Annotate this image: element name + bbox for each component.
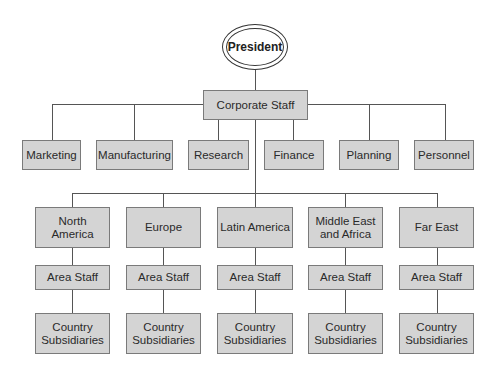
connector-region-4 — [345, 193, 346, 207]
connector-staff-1 — [72, 248, 73, 265]
connector-staff-3 — [255, 248, 256, 265]
connector-region-5 — [437, 193, 438, 207]
connector-subs-4 — [345, 290, 346, 313]
department-research: Research — [188, 140, 249, 170]
connector-subs-5 — [437, 290, 438, 313]
connector-region-3 — [255, 193, 256, 207]
org-chart: President Corporate Staff Marketing Manu… — [0, 0, 502, 373]
connector-research — [218, 120, 219, 140]
area-staff-middle-east-africa: Area Staff — [308, 265, 383, 290]
connector-subs-3 — [255, 290, 256, 313]
area-staff-europe: Area Staff — [126, 265, 201, 290]
connector-staff-4 — [345, 248, 346, 265]
connector-marketing — [52, 104, 53, 140]
connector-planning — [369, 104, 370, 140]
region-middle-east-africa: Middle East and Africa — [308, 207, 383, 248]
connector-staff-2 — [163, 248, 164, 265]
connector-personnel — [445, 104, 446, 140]
subsidiaries-latin-america: Country Subsidiaries — [217, 313, 293, 354]
department-manufacturing: Manufacturing — [96, 140, 173, 170]
connector-staff-5 — [437, 248, 438, 265]
department-planning: Planning — [339, 140, 399, 170]
connector-subs-1 — [72, 290, 73, 313]
area-staff-latin-america: Area Staff — [217, 265, 293, 290]
subsidiaries-far-east: Country Subsidiaries — [399, 313, 474, 354]
connector-corporate-regions — [255, 120, 256, 193]
area-staff-north-america: Area Staff — [35, 265, 110, 290]
department-finance: Finance — [264, 140, 324, 170]
subsidiaries-north-america: Country Subsidiaries — [35, 313, 110, 354]
region-europe: Europe — [126, 207, 201, 248]
department-personnel: Personnel — [414, 140, 474, 170]
connector-manufacturing — [134, 104, 135, 140]
connector-region-1 — [72, 193, 73, 207]
subsidiaries-middle-east-africa: Country Subsidiaries — [308, 313, 383, 354]
connector-finance — [293, 120, 294, 140]
area-staff-far-east: Area Staff — [399, 265, 474, 290]
department-marketing: Marketing — [22, 140, 81, 170]
connector-president-corporate — [255, 70, 256, 90]
subsidiaries-europe: Country Subsidiaries — [126, 313, 201, 354]
connector-region-2 — [163, 193, 164, 207]
president-node: President — [222, 24, 288, 70]
corporate-staff-node: Corporate Staff — [203, 90, 308, 120]
region-latin-america: Latin America — [217, 207, 293, 248]
president-label: President — [226, 28, 284, 66]
region-north-america: North America — [35, 207, 110, 248]
connector-subs-2 — [163, 290, 164, 313]
region-far-east: Far East — [399, 207, 474, 248]
